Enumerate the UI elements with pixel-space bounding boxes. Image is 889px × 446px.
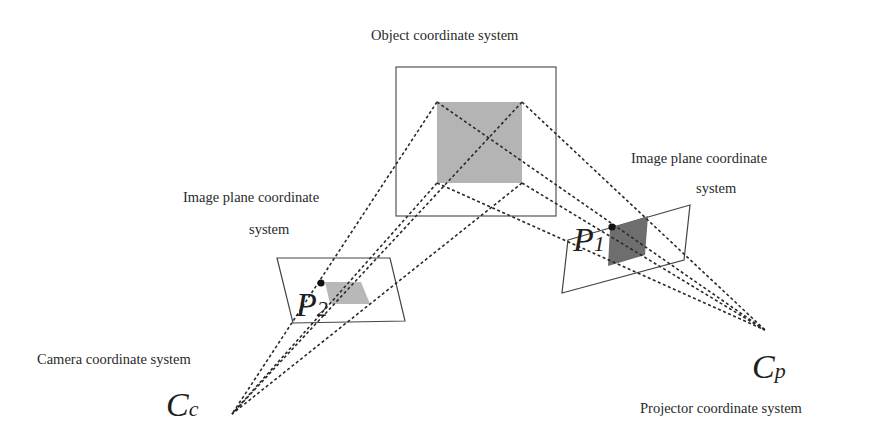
cc-symbol: Cc [166,388,198,422]
cp-symbol: Cp [752,350,786,384]
p2-point [317,279,324,286]
left-image-plane-label-line1: Image plane coordinate [183,190,319,205]
right-image-plane-label-line1: Image plane coordinate [631,151,767,166]
p2-symbol: P2 [296,288,328,322]
object-coordinate-label: Object coordinate system [371,28,518,43]
camera-coordinate-label: Camera coordinate system [37,352,191,367]
projector-coordinate-label: Projector coordinate system [640,401,802,416]
right-image-plane-label-line2: system [696,181,736,196]
object-square [437,102,522,183]
left-image-plane-label-line2: system [249,222,289,237]
p1-symbol: P1 [573,223,605,257]
p1-point [608,223,615,230]
